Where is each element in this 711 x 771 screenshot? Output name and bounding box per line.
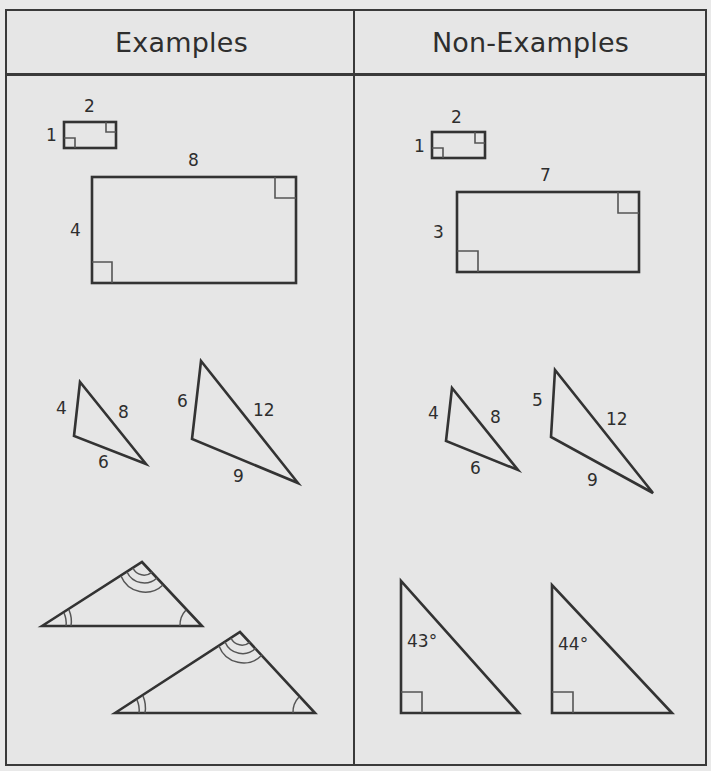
non-example-triangle-large: 5 12 9 [532, 370, 653, 493]
example-rectangle-small: 2 1 [46, 96, 116, 148]
non-example-triangle-small: 4 8 6 [428, 388, 518, 478]
non-example-rectangle-large: 7 3 [433, 165, 639, 272]
example-rect-large-width-label: 8 [188, 150, 199, 170]
non-example-tri-large-side-a: 5 [532, 390, 543, 410]
example-tri-small-side-a: 4 [56, 398, 67, 418]
non-example-rect-large-width-label: 7 [540, 165, 551, 185]
figures-canvas: 2 1 8 4 4 8 6 6 12 9 [0, 0, 711, 771]
non-example-rect-small-height-label: 1 [414, 136, 425, 156]
example-rectangle-large: 8 4 [70, 150, 296, 283]
example-rect-small-height-label: 1 [46, 125, 57, 145]
non-example-tri-large-side-b: 12 [606, 409, 628, 429]
example-tri-large-side-c: 9 [233, 466, 244, 486]
non-example-rectangle-small: 2 1 [414, 107, 485, 158]
example-tri-small-side-b: 8 [118, 402, 129, 422]
non-example-rect-small-width-label: 2 [451, 107, 462, 127]
non-example-right-triangle-44: 44° [552, 585, 672, 713]
example-angle-triangle-2 [115, 632, 315, 713]
example-triangle-large: 6 12 9 [177, 361, 298, 486]
non-example-right-triangle-43: 43° [401, 581, 519, 713]
example-rect-large-height-label: 4 [70, 220, 81, 240]
non-example-right-tri-1-angle: 43° [407, 631, 437, 651]
example-tri-small-side-c: 6 [98, 452, 109, 472]
non-example-right-tri-2-angle: 44° [558, 634, 588, 654]
example-angle-triangle-1 [42, 562, 202, 626]
non-example-tri-small-side-a: 4 [428, 403, 439, 423]
example-tri-large-side-b: 12 [253, 400, 275, 420]
non-example-tri-small-side-c: 6 [470, 458, 481, 478]
example-tri-large-side-a: 6 [177, 391, 188, 411]
non-example-tri-large-side-c: 9 [587, 470, 598, 490]
non-example-tri-small-side-b: 8 [490, 407, 501, 427]
example-triangle-small: 4 8 6 [56, 382, 146, 472]
non-example-rect-large-height-label: 3 [433, 222, 444, 242]
example-rect-small-width-label: 2 [84, 96, 95, 116]
